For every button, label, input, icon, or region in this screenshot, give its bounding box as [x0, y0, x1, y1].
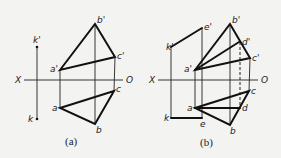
axis-o-label-b: O — [261, 75, 268, 85]
triangle-front-a — [60, 24, 115, 70]
label-d-b: d — [242, 103, 248, 113]
point-k-prime-a — [36, 46, 39, 49]
c-projector-b — [249, 58, 250, 91]
c-projector-a — [114, 57, 115, 91]
triangle-top-a — [60, 91, 114, 124]
label-a-a: a — [52, 103, 58, 113]
label-c-prime-b: c' — [252, 53, 259, 63]
axis-o-label-a: O — [126, 75, 133, 85]
label-c-prime-a: c' — [117, 51, 124, 61]
caption-b: (b) — [200, 136, 213, 149]
label-k-prime-b: k' — [166, 42, 174, 52]
label-c-a: c — [116, 84, 121, 94]
label-b-prime-a: b' — [97, 15, 105, 25]
label-a-prime-a: a' — [50, 64, 58, 74]
projection-diagram: X O k' k b' c' a' a c b (a) X O — [0, 0, 281, 158]
label-b-b: b — [230, 126, 236, 136]
axis-x-label-b: X — [148, 75, 156, 85]
label-b-a: b — [96, 125, 102, 135]
label-k-a: k — [28, 114, 34, 124]
axis-x-label-a: X — [14, 75, 22, 85]
label-b-prime-b: b' — [232, 15, 240, 25]
label-c-b: c — [251, 86, 256, 96]
label-e-prime-b: e' — [204, 22, 212, 32]
line-k-prime-e-prime — [171, 28, 202, 47]
label-a-b: a — [187, 103, 193, 113]
label-k-b: k — [164, 113, 170, 123]
label-a-prime-b: a' — [184, 64, 192, 74]
label-d-prime-b: d' — [242, 37, 250, 47]
label-k-prime-a: k' — [33, 35, 41, 45]
figure-b: X O k' e' b' d' c' a' a c d k e b (b) — [148, 15, 268, 149]
point-k-a — [36, 118, 39, 121]
caption-a: (a) — [65, 135, 78, 148]
label-e-b: e — [200, 119, 206, 129]
figure-a: X O k' k b' c' a' a c b (a) — [14, 15, 133, 148]
